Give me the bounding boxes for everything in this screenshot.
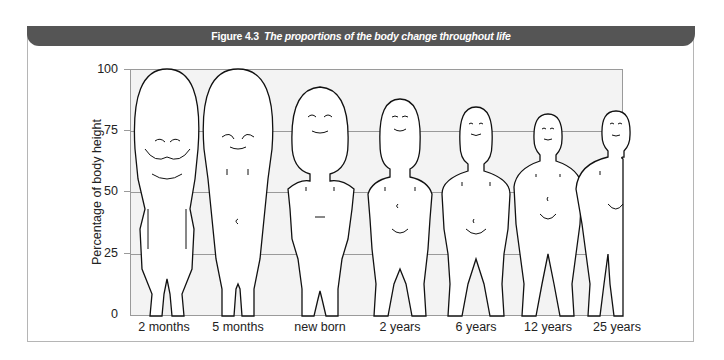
figure-2-months (134, 69, 198, 316)
y-axis-title: Percentage of body height (90, 119, 104, 265)
x-label-12-years: 12 years (508, 320, 588, 334)
figure-banner: Figure 4.3The proportions of the body ch… (27, 26, 695, 46)
figure-2-years (368, 99, 432, 316)
figure-label: Figure 4.3 (211, 30, 259, 42)
body-proportion-figures (130, 69, 623, 316)
figure-5-months (203, 69, 273, 316)
figure-25-years (576, 111, 630, 316)
figure-6-years (442, 107, 510, 316)
x-label-2-months: 2 months (124, 320, 204, 334)
x-label-2-years: 2 years (360, 320, 440, 334)
x-label-new-born: new born (280, 320, 360, 334)
figure-caption: The proportions of the body change throu… (264, 30, 511, 42)
x-label-6-years: 6 years (436, 320, 516, 334)
y-tick-label-0: 0 (78, 307, 118, 321)
figure-12-years (514, 114, 582, 316)
figure-new-born (288, 87, 354, 316)
y-tick-label-100: 100 (78, 62, 118, 76)
x-label-25-years: 25 years (577, 320, 657, 334)
x-label-5-months: 5 months (198, 320, 278, 334)
